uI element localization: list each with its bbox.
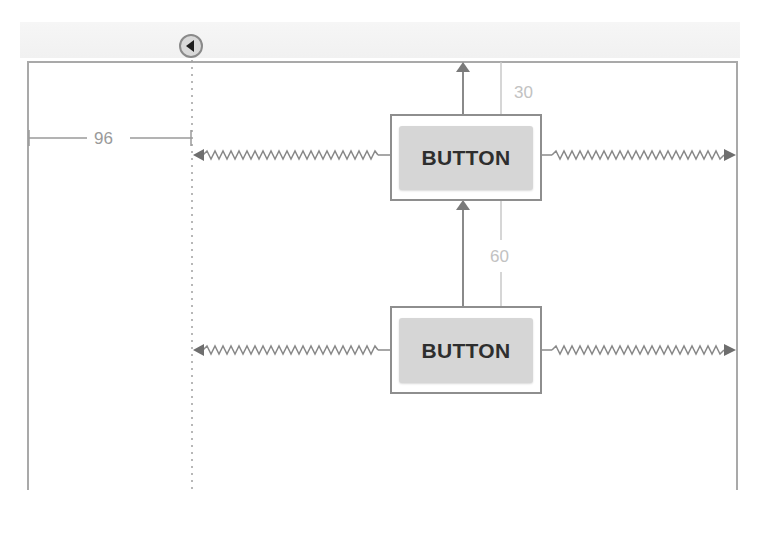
button-widget-2[interactable]: BUTTON <box>390 306 542 394</box>
button-1-left-spring[interactable] <box>203 151 390 159</box>
parent-container <box>27 62 738 490</box>
button-2-left-arrowhead <box>193 344 204 356</box>
guideline-offset-label: 96 <box>94 130 113 147</box>
button-widget-1-body: BUTTON <box>399 126 533 190</box>
button-2-left-spring[interactable] <box>203 346 390 354</box>
button-1-margin-label: 30 <box>514 84 533 101</box>
button-2-margin-label: 60 <box>490 248 509 265</box>
button-2-right-arrowhead <box>724 344 736 356</box>
button-widget-2-label: BUTTON <box>422 339 511 363</box>
button-1-right-arrowhead <box>724 149 736 161</box>
button-widget-2-body: BUTTON <box>399 318 533 383</box>
button-widget-1-label: BUTTON <box>422 146 511 170</box>
guideline-handle[interactable] <box>179 34 203 58</box>
button-2-right-spring[interactable] <box>541 346 724 354</box>
button-2-top-constraint[interactable] <box>456 200 470 306</box>
chevron-left-icon <box>186 40 194 52</box>
button-1-right-spring[interactable] <box>541 151 724 159</box>
button-1-top-constraint[interactable] <box>456 62 470 114</box>
button-1-left-arrowhead <box>193 149 204 161</box>
layout-canvas <box>0 0 762 539</box>
button-widget-1[interactable]: BUTTON <box>390 114 542 201</box>
